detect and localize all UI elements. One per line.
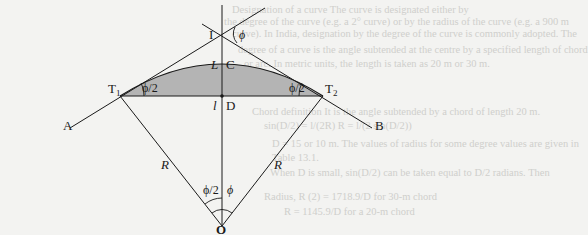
radius-left [120, 96, 222, 226]
label-phi-o: ϕ [227, 183, 233, 197]
label-a: A [63, 118, 73, 133]
angle-arc-half-o [205, 198, 222, 204]
label-radius-right: R [273, 157, 282, 172]
label-half-angle-t1: ϕ/2 [142, 81, 158, 95]
label-half-angle-o: ϕ/2 [203, 183, 219, 197]
label-t2: T2 [325, 81, 337, 98]
label-chord-length: l [213, 98, 217, 113]
radius-right [222, 96, 323, 226]
label-i: I [209, 27, 213, 42]
label-d: D [226, 98, 235, 113]
point-d-dot [220, 94, 224, 98]
label-o: O [216, 222, 226, 235]
label-arc-length: L [210, 57, 218, 72]
label-b: B [375, 118, 384, 133]
label-phi-i: ϕ [239, 28, 245, 42]
label-half-angle-t2: ϕ/2 [289, 81, 305, 95]
label-t1: T1 [108, 81, 120, 98]
label-radius-left: R [160, 157, 169, 172]
angle-arc-phi-i [233, 27, 237, 43]
label-c: C [226, 57, 235, 72]
